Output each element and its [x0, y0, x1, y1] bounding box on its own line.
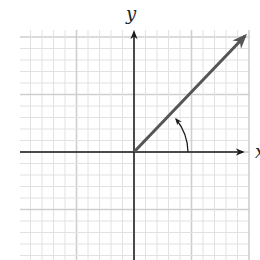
- coordinate-plane: y x: [0, 0, 260, 260]
- grid: [20, 30, 250, 260]
- angle-arc-arrow: [176, 119, 188, 152]
- y-axis-label: y: [125, 3, 137, 24]
- x-axis-label: x: [255, 141, 260, 162]
